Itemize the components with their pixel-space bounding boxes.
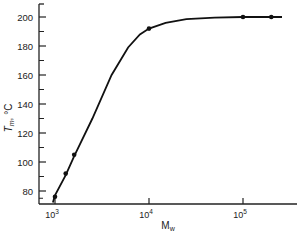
data-point — [63, 171, 68, 176]
y-axis-label: Tm, °C — [3, 104, 15, 133]
y-tick-label: 200 — [17, 12, 33, 23]
y-tick-label: 120 — [17, 128, 33, 139]
fit-curve — [53, 17, 282, 203]
x-ticks: 103104105 — [45, 198, 247, 220]
data-points — [53, 15, 274, 199]
data-point — [72, 152, 77, 157]
y-tick-label: 100 — [17, 157, 33, 168]
x-tick-label: 103 — [45, 208, 59, 220]
y-tick-label: 80 — [22, 186, 33, 197]
data-point — [269, 15, 274, 20]
chart: 80100120140160180200 103104105 Tm, °C Mw — [0, 0, 302, 242]
y-tick-label: 160 — [17, 70, 33, 81]
axes — [39, 4, 297, 204]
data-point — [53, 195, 58, 200]
y-tick-label: 180 — [17, 41, 33, 52]
x-tick-label: 104 — [139, 208, 153, 220]
x-tick-label: 105 — [233, 208, 247, 220]
data-point — [241, 15, 246, 20]
y-tick-label: 140 — [17, 99, 33, 110]
y-ticks: 80100120140160180200 — [17, 12, 46, 199]
x-axis-label: Mw — [161, 220, 175, 232]
data-point — [147, 26, 152, 31]
